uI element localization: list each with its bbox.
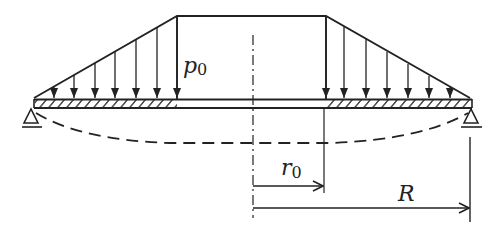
deflection-curve — [36, 113, 468, 143]
load-profile — [34, 16, 470, 99]
left-support — [22, 109, 42, 127]
beam-diagram: p0 r0 R — [0, 0, 497, 235]
pin-support-icon — [464, 109, 478, 123]
R-label: R — [397, 181, 415, 206]
right-load-arrows — [326, 16, 450, 98]
p0-symbol: p — [183, 53, 197, 78]
pin-support-icon — [24, 109, 38, 123]
right-support — [461, 109, 482, 127]
p0-subscript: 0 — [197, 60, 207, 79]
hatched-region-right — [326, 100, 471, 108]
load-outline-top — [34, 16, 470, 98]
left-load-arrows — [54, 16, 177, 98]
hatched-region-left — [35, 100, 177, 108]
p0-label: p0 — [183, 53, 207, 79]
r0-label: r0 — [281, 155, 302, 182]
r0-subscript: 0 — [292, 163, 302, 182]
